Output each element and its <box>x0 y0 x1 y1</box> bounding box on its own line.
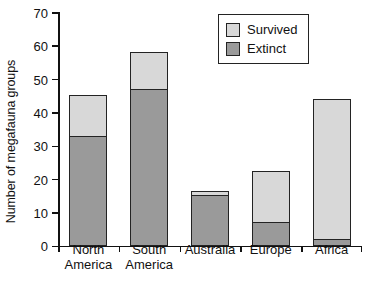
legend-swatch-extinct-icon <box>226 42 240 56</box>
category-label-africa: Africa <box>301 243 362 258</box>
category-label-australia: Australia <box>180 243 241 258</box>
bar-segment-survived <box>131 53 167 90</box>
legend-label-extinct: Extinct <box>247 41 286 56</box>
category-label-line2: America <box>119 258 180 273</box>
y-tick-label: 70 <box>34 5 48 20</box>
stacked-bar-south-america <box>130 52 168 246</box>
category-label-europe: Europe <box>240 243 301 258</box>
plot-area: 0 10 20 30 40 50 60 70 <box>58 12 362 247</box>
y-tick-label: 40 <box>34 105 48 120</box>
bar-slot-africa <box>301 12 362 246</box>
bar-segment-survived <box>253 172 289 223</box>
legend-item-extinct: Extinct <box>226 39 298 58</box>
bar-segment-survived <box>314 100 350 239</box>
y-axis-title: Number of megafauna groups <box>0 0 22 283</box>
category-label-line1: North <box>58 243 119 258</box>
bar-segment-extinct <box>70 136 106 245</box>
category-label-line1: Africa <box>301 243 362 258</box>
category-label-line1: South <box>119 243 180 258</box>
bar-segment-survived <box>70 96 106 136</box>
category-label-line1: Australia <box>180 243 241 258</box>
bar-slot-north-america <box>58 12 119 246</box>
stacked-bar-north-america <box>69 95 107 246</box>
bar-series-group <box>58 12 362 246</box>
y-tick-label: 10 <box>34 205 48 220</box>
legend: Survived Extinct <box>218 14 309 64</box>
y-tick-label: 30 <box>34 139 48 154</box>
y-tick-label: 60 <box>34 39 48 54</box>
category-label-line1: Europe <box>240 243 301 258</box>
legend-swatch-survived-icon <box>226 23 240 37</box>
category-label-north-america: North America <box>58 243 119 272</box>
y-tick-label: 50 <box>34 72 48 87</box>
category-label-south-america: South America <box>119 243 180 272</box>
y-tick-label: 0 <box>41 239 48 254</box>
category-label-line2: America <box>58 258 119 273</box>
bar-segment-extinct <box>131 89 167 245</box>
y-tick-label: 20 <box>34 172 48 187</box>
stacked-bar-australia <box>191 191 229 246</box>
stacked-bar-europe <box>252 171 290 246</box>
bar-slot-south-america <box>119 12 180 246</box>
megafauna-stacked-bar-chart: Number of megafauna groups 0 10 20 30 40… <box>0 0 372 283</box>
legend-item-survived: Survived <box>226 20 298 39</box>
bar-segment-extinct <box>192 195 228 245</box>
stacked-bar-africa <box>313 99 351 246</box>
legend-label-survived: Survived <box>247 22 298 37</box>
